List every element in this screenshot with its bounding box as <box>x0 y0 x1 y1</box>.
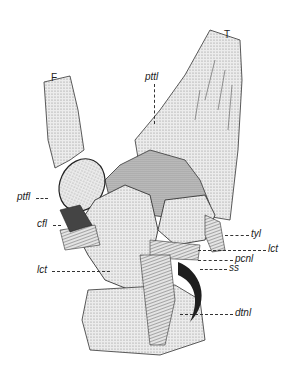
label-F: F <box>51 73 57 83</box>
leader-lct-left <box>52 271 110 272</box>
label-T: T <box>224 30 230 40</box>
fibula-shaft <box>44 76 84 168</box>
label-lct-left: lct <box>37 265 47 275</box>
leader-pttl <box>154 84 155 124</box>
label-ptfl: ptfl <box>17 192 30 202</box>
label-ss: ss <box>229 263 239 273</box>
leader-ptfl <box>36 198 48 199</box>
leader-lct-right <box>198 250 266 251</box>
label-dtnl: dtnl <box>235 308 251 318</box>
leader-cfl <box>53 225 61 226</box>
lower-segment <box>82 285 205 355</box>
tyl-ligament <box>205 215 225 252</box>
leader-dtnl <box>180 314 233 315</box>
label-cfl: cfl <box>37 219 47 229</box>
leader-tyl <box>225 235 249 236</box>
leader-ss <box>200 269 227 270</box>
label-lct-right: lct <box>268 244 278 254</box>
leader-pcnl <box>198 260 233 261</box>
label-tyl: tyl <box>251 229 261 239</box>
label-pttl: pttl <box>145 72 158 82</box>
